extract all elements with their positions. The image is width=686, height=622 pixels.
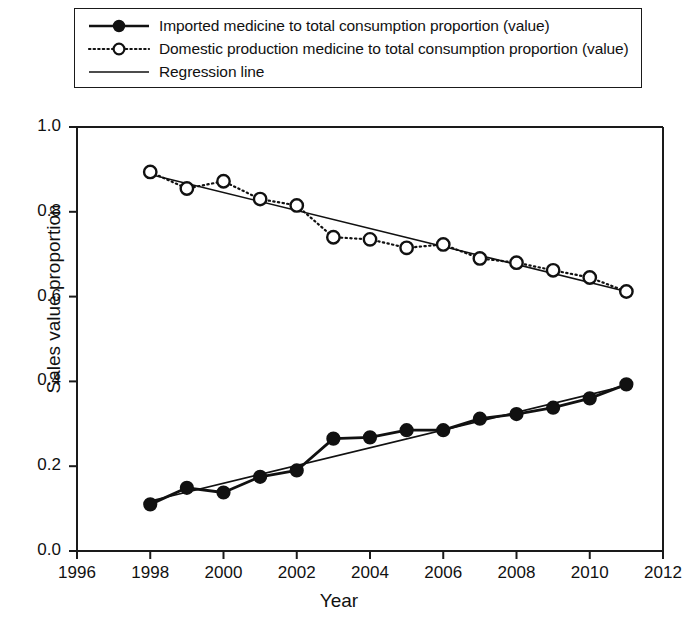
- data-series: [144, 166, 633, 511]
- data-point: [217, 175, 229, 187]
- data-point: [474, 413, 486, 425]
- data-point: [291, 464, 303, 476]
- y-tick-label: 0.0: [17, 540, 61, 560]
- x-tick-label: 1996: [47, 563, 107, 583]
- data-point: [364, 233, 376, 245]
- data-point: [547, 401, 559, 413]
- data-point: [144, 498, 156, 510]
- data-point: [181, 482, 193, 494]
- data-point: [291, 199, 303, 211]
- x-axis-ticks: [77, 551, 663, 559]
- x-tick-label: 2012: [633, 563, 686, 583]
- data-point: [144, 166, 156, 178]
- x-tick-label: 2004: [340, 563, 400, 583]
- y-tick-label: 1.0: [17, 116, 61, 136]
- y-axis-ticks: [69, 127, 77, 551]
- regression-lines: [150, 174, 626, 500]
- x-tick-label: 2008: [487, 563, 547, 583]
- data-point: [181, 182, 193, 194]
- x-tick-label: 2006: [413, 563, 473, 583]
- data-point: [327, 231, 339, 243]
- data-point: [510, 256, 522, 268]
- data-point: [437, 238, 449, 250]
- y-axis-title: Sales value proportion: [43, 169, 65, 429]
- data-point: [547, 264, 559, 276]
- data-point: [620, 378, 632, 390]
- data-point: [327, 432, 339, 444]
- y-tick-label: 0.2: [17, 455, 61, 475]
- data-point: [400, 424, 412, 436]
- x-tick-label: 2010: [560, 563, 620, 583]
- data-point: [400, 242, 412, 254]
- data-point: [254, 471, 266, 483]
- x-tick-label: 2002: [267, 563, 327, 583]
- data-point: [584, 271, 596, 283]
- x-tick-label: 2000: [194, 563, 254, 583]
- x-axis-title: Year: [0, 590, 678, 612]
- axis-frame: [77, 127, 663, 551]
- data-point: [584, 392, 596, 404]
- data-point: [254, 193, 266, 205]
- data-point: [620, 285, 632, 297]
- x-tick-label: 1998: [120, 563, 180, 583]
- data-point: [437, 424, 449, 436]
- data-point: [217, 486, 229, 498]
- data-point: [474, 252, 486, 264]
- data-point: [364, 431, 376, 443]
- data-point: [510, 408, 522, 420]
